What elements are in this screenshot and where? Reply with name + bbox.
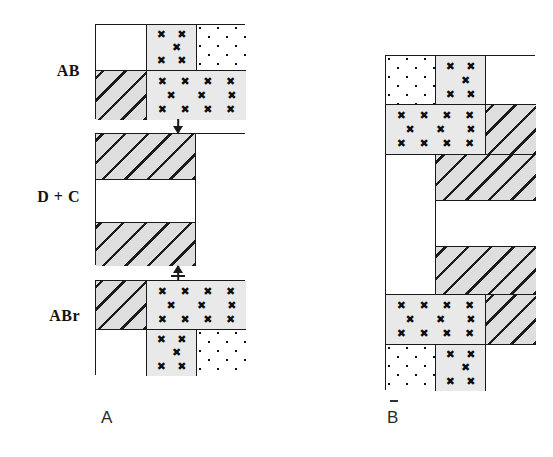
cell-b-r1c1 xyxy=(386,56,436,104)
cell-b-r7c3 xyxy=(486,344,536,391)
connector-arrow-down-ab-to-dc xyxy=(168,119,188,133)
cell-abr-r1c1 xyxy=(96,281,146,329)
caption-tick-mark-icon xyxy=(390,400,398,402)
cell-dc-r1 xyxy=(96,134,196,179)
cell-ab-r1c3 xyxy=(196,25,246,70)
cell-abr-r2c2: ✖✖ ✖ ✖✖ xyxy=(146,329,196,376)
cell-b-r1c2: ✖✖ ✖ ✖✖ xyxy=(436,56,486,104)
cell-b-r7c1 xyxy=(386,344,436,391)
block-abr: ✖✖✖✖ ✖✖✖ ✖✖✖✖ ✖✖ ✖ ✖✖ xyxy=(95,280,245,375)
cell-b-r5c2 xyxy=(436,247,536,294)
cell-ab-r1c2: ✖✖ ✖ ✖✖ xyxy=(146,25,196,70)
cell-abr-r2c3 xyxy=(196,329,246,376)
connector-arrow-up-dc-to-abr xyxy=(168,266,188,280)
cell-abr-r1c2: ✖✖✖✖ ✖✖✖ ✖✖✖✖ xyxy=(146,281,246,329)
cell-b-r2c1: ✖✖✖✖ ✖✖✖ ✖✖✖✖ xyxy=(386,104,486,154)
panel-caption-b: B xyxy=(387,408,398,428)
cell-b-r6c2 xyxy=(486,294,536,344)
block-dc xyxy=(95,133,245,265)
block-ab: ✖✖ ✖ ✖✖ ✖✖✖✖ ✖✖✖ ✖✖✖✖ xyxy=(95,24,245,119)
cell-b-r6c1: ✖✖✖✖ ✖✖✖ ✖✖✖✖ xyxy=(386,294,486,344)
cell-b-r4c2 xyxy=(436,200,536,247)
cell-ab-r2c1 xyxy=(96,70,146,120)
row-label-dc: D + C xyxy=(8,188,80,206)
cell-b-r1c3 xyxy=(486,56,536,104)
cell-b-r3left xyxy=(386,154,436,294)
cell-dc-r3 xyxy=(96,223,196,266)
block-panel-b: ✖✖ ✖ ✖✖ ✖✖✖✖ ✖✖✖ ✖✖✖✖ ✖✖✖✖ ✖✖✖ ✖✖✖ xyxy=(385,55,535,390)
cell-ab-r1c1 xyxy=(96,25,146,70)
cell-dc-r2 xyxy=(96,179,196,223)
figure-canvas: AB D + C ABr ✖✖ ✖ ✖✖ ✖✖✖✖ ✖✖✖ ✖✖✖✖ xyxy=(0,0,553,457)
cell-ab-r2c2: ✖✖✖✖ ✖✖✖ ✖✖✖✖ xyxy=(146,70,246,120)
cell-b-r7c2: ✖✖ ✖ ✖✖ xyxy=(436,344,486,391)
cell-b-r3c2 xyxy=(436,154,536,200)
row-label-ab: AB xyxy=(18,62,80,80)
row-label-abr: ABr xyxy=(14,307,80,325)
panel-caption-a: A xyxy=(101,408,112,428)
cell-b-r2c2 xyxy=(486,104,536,154)
cell-abr-r2c1 xyxy=(96,329,146,376)
cell-dc-right xyxy=(196,134,246,266)
